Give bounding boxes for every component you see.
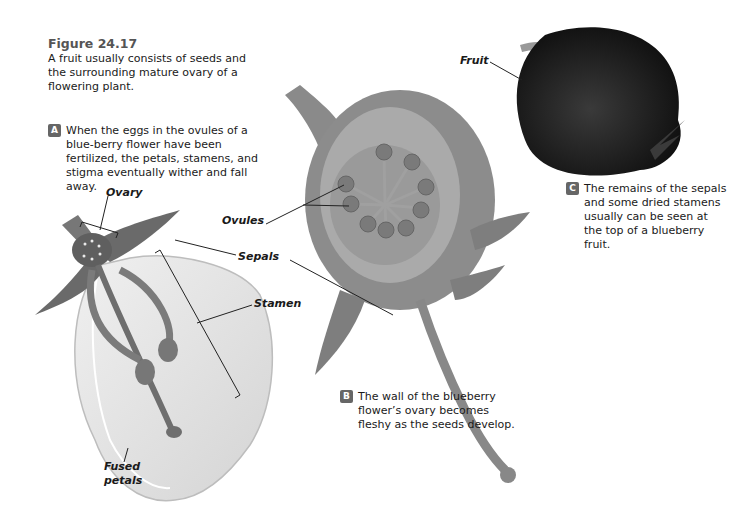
label-fused: Fused — [104, 460, 140, 473]
step-b-badge-icon: B — [340, 390, 353, 403]
label-fruit: Fruit — [460, 54, 489, 67]
label-sepals: Sepals — [238, 250, 279, 263]
step-c: C The remains of the sepals and some dri… — [566, 182, 731, 242]
step-b: B The wall of the blueberry flower’s ova… — [340, 390, 525, 440]
step-a-text: When the eggs in the ovules of a blue-be… — [66, 124, 266, 194]
step-a: A When the eggs in the ovules of a blue-… — [48, 124, 263, 184]
label-ovules: Ovules — [222, 214, 264, 227]
step-c-badge-icon: C — [566, 182, 579, 195]
step-a-badge-icon: A — [48, 124, 61, 137]
step-c-text: The remains of the sepals and some dried… — [584, 182, 729, 252]
step-b-text: The wall of the blueberry flower’s ovary… — [358, 390, 523, 432]
label-stamen: Stamen — [254, 297, 301, 310]
figure-number: Figure 24.17 — [48, 36, 137, 51]
flower-diagram — [35, 196, 272, 501]
label-ovary: Ovary — [106, 186, 143, 199]
fruit-diagram — [490, 27, 685, 175]
label-petals: petals — [104, 474, 142, 487]
figure-caption: A fruit usually consists of seeds and th… — [48, 52, 263, 94]
